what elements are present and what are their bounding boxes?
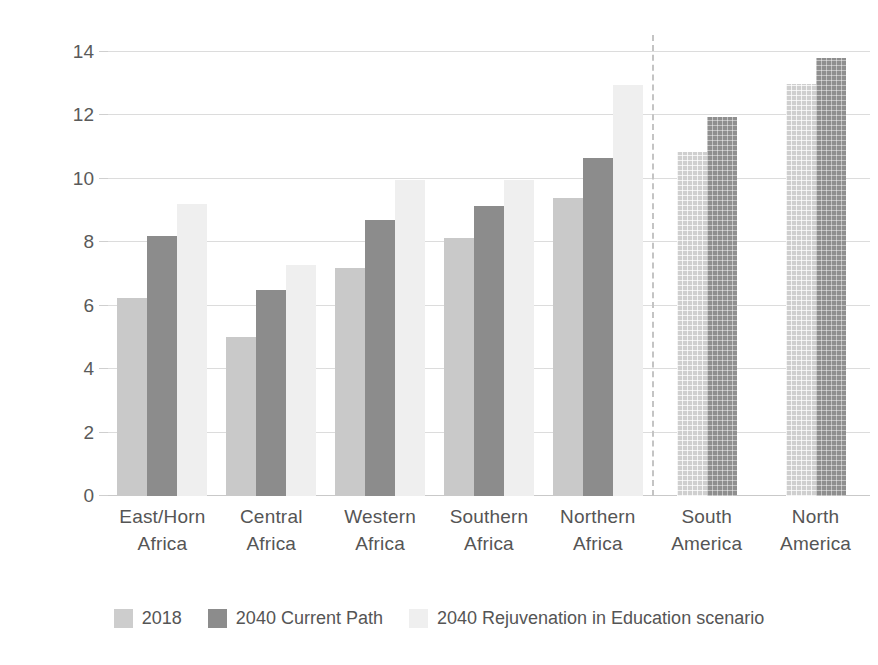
y-axis-tick-mark <box>99 178 108 179</box>
bar <box>335 268 365 496</box>
plot-area: 02468101214 <box>108 52 870 496</box>
y-axis-tick-label: 8 <box>83 231 94 253</box>
y-axis-tick-label: 2 <box>83 422 94 444</box>
bar <box>677 152 707 496</box>
legend-label: 2018 <box>142 608 182 629</box>
category-label-line: America <box>652 530 761 557</box>
bar <box>226 337 256 496</box>
legend-label: 2040 Rejuvenation in Education scenario <box>437 608 764 629</box>
bar <box>583 158 613 496</box>
x-axis-category-labels: East/HornAfricaCentralAfricaWesternAfric… <box>108 503 870 573</box>
bar <box>256 290 286 496</box>
y-axis-tick-mark <box>99 114 108 115</box>
category-label-line: Western <box>326 503 435 530</box>
bar-chart: Mean years of education 02468101214 East… <box>0 0 878 665</box>
category-label-line: North <box>761 503 870 530</box>
bar <box>365 220 395 496</box>
category-label-line: Northern <box>543 503 652 530</box>
bar <box>286 265 316 497</box>
bar-group <box>335 52 425 496</box>
legend-swatch-icon <box>208 609 227 628</box>
bar-group <box>117 52 207 496</box>
bar <box>395 180 425 496</box>
bar <box>444 238 474 496</box>
x-axis-category-label: East/HornAfrica <box>108 503 217 557</box>
x-axis-category-label: NorthernAfrica <box>543 503 652 557</box>
bar <box>504 180 534 496</box>
category-label-line: Central <box>217 503 326 530</box>
y-axis-tick-mark <box>99 432 108 433</box>
category-label-line: Africa <box>435 530 544 557</box>
y-axis-tick-label: 12 <box>73 104 94 126</box>
bar <box>147 236 177 496</box>
category-label-line: South <box>652 503 761 530</box>
bar <box>177 204 207 496</box>
x-axis-category-label: SouthernAfrica <box>435 503 544 557</box>
x-axis-category-label: CentralAfrica <box>217 503 326 557</box>
x-axis-category-label: NorthAmerica <box>761 503 870 557</box>
bar-group <box>786 52 846 496</box>
category-label-line: Africa <box>543 530 652 557</box>
bar <box>474 206 504 496</box>
chart-legend: 20182040 Current Path2040 Rejuvenation i… <box>0 608 878 629</box>
legend-item[interactable]: 2018 <box>114 608 182 629</box>
bar-group <box>553 52 643 496</box>
legend-swatch-icon <box>114 609 133 628</box>
bar <box>816 58 846 496</box>
y-axis-tick-label: 4 <box>83 358 94 380</box>
bar <box>613 85 643 496</box>
y-axis-tick-label: 6 <box>83 295 94 317</box>
category-label-line: East/Horn <box>108 503 217 530</box>
y-axis-tick-label: 10 <box>73 168 94 190</box>
legend-item[interactable]: 2040 Current Path <box>208 608 383 629</box>
legend-swatch-icon <box>409 609 428 628</box>
category-label-line: Africa <box>108 530 217 557</box>
category-label-line: Southern <box>435 503 544 530</box>
y-axis-tick-mark <box>99 495 108 496</box>
category-label-line: Africa <box>217 530 326 557</box>
y-axis-tick-mark <box>99 305 108 306</box>
category-label-line: America <box>761 530 870 557</box>
bar <box>786 84 816 496</box>
bar <box>553 198 583 496</box>
x-axis-category-label: SouthAmerica <box>652 503 761 557</box>
bar-group <box>677 52 737 496</box>
y-axis-tick-mark <box>99 368 108 369</box>
y-axis-tick-mark <box>99 51 108 52</box>
y-axis-tick-mark <box>99 241 108 242</box>
bar-group <box>444 52 534 496</box>
legend-label: 2040 Current Path <box>236 608 383 629</box>
y-axis-tick-label: 14 <box>73 41 94 63</box>
bar <box>707 117 737 496</box>
category-label-line: Africa <box>326 530 435 557</box>
y-axis-tick-label: 0 <box>83 485 94 507</box>
region-divider-line <box>652 35 654 496</box>
legend-item[interactable]: 2040 Rejuvenation in Education scenario <box>409 608 764 629</box>
bar <box>117 298 147 496</box>
bar-group <box>226 52 316 496</box>
x-axis-category-label: WesternAfrica <box>326 503 435 557</box>
